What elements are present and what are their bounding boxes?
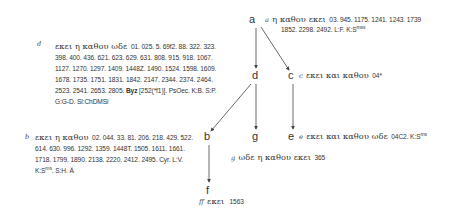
reading-c-witnesses: 04* [372, 72, 382, 79]
reading-a-sup: mss [357, 24, 366, 30]
reading-b-greek: εκει η καθου [35, 132, 89, 142]
reading-f-label: ff [199, 198, 204, 206]
reading-a-witnesses-line2: 1852. 2298. 2492. L:F. K:S [281, 26, 357, 33]
reading-d-byz: Byz [126, 87, 137, 94]
reading-g-greek: ωδε η καθου εκει [239, 152, 311, 162]
reading-f-greek: εκει [207, 196, 224, 206]
node-d: d [252, 70, 258, 81]
reading-a-witnesses-line1: 03. 945. 1175. 1241. 1243. 1739 [329, 16, 421, 23]
reading-a-label: a [265, 16, 269, 24]
reading-d-label: d [37, 40, 41, 48]
reading-e: e εκει και καθου ωδε 04C2. K:Sms [299, 131, 427, 143]
node-c: c [288, 70, 294, 81]
reading-e-greek: εκει και καθου ωδε [306, 131, 388, 141]
reading-b-line4-pre: K:S [35, 167, 45, 174]
reading-c: c εκει και καθου 04* [299, 70, 382, 82]
reading-d-line4: 1678. 1735. 1751. 1831. 1842. 2147. 2344… [55, 74, 213, 85]
reading-f: ff εκει 1563 [199, 196, 244, 208]
reading-d-line5: 2523. 2541. 2653. 2805. Byz [252(*f1)]. … [55, 85, 216, 96]
reading-g: g ωδε η καθου εκει 365 [231, 152, 325, 164]
reading-e-witnesses: 04C2. K:S [391, 133, 420, 140]
reading-d-line1: εκει η καθου ωδε 01. 025. 5. 69f2. 88. 3… [55, 41, 216, 52]
reading-b-line1: εκει η καθου 02. 044. 33. 81. 206. 218. … [35, 132, 193, 143]
reading-b-line2: 614. 630. 996. 1292. 1359. 1448T. 1505. … [35, 143, 185, 154]
reading-e-label: e [299, 133, 303, 141]
node-a: a [249, 14, 255, 25]
reading-e-sup: ms [420, 131, 426, 137]
node-b: b [204, 131, 210, 142]
reading-d-line2: 398. 400. 436. 621. 623. 629. 631. 808. … [55, 52, 213, 63]
reading-b-line3: 1718. 1799. 1890. 2138. 2220. 2412. 2495… [35, 154, 183, 165]
reading-g-witnesses: 365 [314, 154, 325, 161]
reading-d-line5-post: [252(*f1)]. PsOec. K:B. S:P. [139, 87, 216, 94]
reading-d-witnesses-line1: 01. 025. 5. 69f2. 88. 322. 323. [131, 43, 216, 50]
reading-a-line2: 1852. 2298. 2492. L:F. K:Smss [281, 24, 365, 35]
reading-b-witnesses-line1: 02. 044. 33. 81. 206. 218. 429. 522. [92, 134, 193, 141]
edge-d-b [211, 84, 251, 131]
reading-b-label: b [25, 133, 29, 141]
reading-d-greek: εκει η καθου ωδε [55, 41, 127, 51]
reading-a-greek: η καθου εκει [272, 14, 326, 24]
reading-b-line4: K:Sms. S:H. Ä [35, 165, 74, 176]
reading-d-line6: G:G-D. Sl:ChDMSi [55, 96, 108, 107]
node-e: e [288, 131, 294, 142]
reading-d-line3: 1127. 1270. 1297. 1409. 1448Z. 1490. 152… [55, 63, 216, 74]
node-g: g [252, 131, 258, 142]
reading-f-witnesses: 1563 [230, 198, 244, 205]
node-f: f [206, 185, 209, 196]
reading-d-line5-pre: 2523. 2541. 2653. 2805. [55, 87, 124, 94]
reading-b-line4-post: . S:H. Ä [52, 167, 74, 174]
reading-g-label: g [231, 154, 235, 162]
reading-c-greek: εκει και καθου [306, 70, 369, 80]
reading-c-label: c [299, 72, 303, 80]
